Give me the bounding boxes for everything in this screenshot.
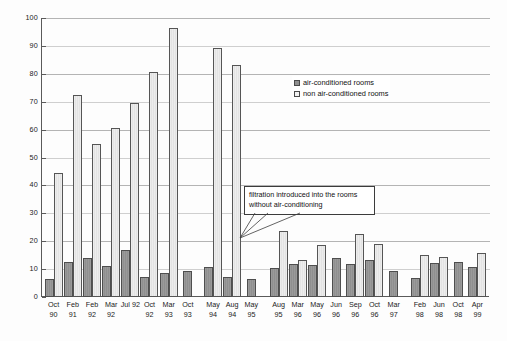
bar-group[interactable]	[346, 18, 365, 297]
bar-non-air-conditioned[interactable]	[279, 231, 288, 297]
x-axis-tick-label: Oct92	[140, 300, 159, 319]
y-axis-tick-label: 90	[12, 42, 38, 49]
annotation-line-2: without air-conditioning	[249, 200, 370, 210]
bar-group[interactable]	[140, 18, 159, 297]
bar-air-conditioned[interactable]	[270, 268, 279, 297]
bar-group[interactable]	[121, 18, 140, 297]
x-label-month: Oct	[453, 300, 464, 309]
bar-non-air-conditioned[interactable]	[213, 48, 222, 297]
x-label-year: 97	[384, 310, 403, 320]
bar-air-conditioned[interactable]	[121, 250, 130, 297]
bar-air-conditioned[interactable]	[247, 279, 256, 297]
x-label-month: Aug	[272, 300, 285, 309]
bar-air-conditioned[interactable]	[289, 264, 298, 297]
bar-non-air-conditioned[interactable]	[54, 173, 63, 297]
bar-group[interactable]	[223, 18, 242, 297]
bar-non-air-conditioned[interactable]	[92, 144, 101, 297]
bar-group[interactable]	[44, 18, 63, 297]
bar-group[interactable]	[307, 18, 326, 297]
bar-group[interactable]	[468, 18, 487, 297]
bar-group[interactable]	[203, 18, 222, 297]
x-label-month: Mar	[292, 300, 304, 309]
x-axis-tick-label: Apr99	[468, 300, 487, 319]
x-label-month: Jun	[330, 300, 342, 309]
x-label-month: Feb	[414, 300, 426, 309]
x-axis-tick-label: Oct98	[449, 300, 468, 319]
bar-non-air-conditioned[interactable]	[169, 28, 178, 297]
bar-air-conditioned[interactable]	[160, 273, 169, 297]
x-label-month: Mar	[105, 300, 117, 309]
bar-non-air-conditioned[interactable]	[298, 260, 307, 297]
bar-air-conditioned[interactable]	[64, 262, 73, 297]
x-label-year: 93	[178, 310, 197, 320]
x-label-year: 93	[159, 310, 178, 320]
bar-group[interactable]	[327, 18, 346, 297]
bar-group[interactable]	[159, 18, 178, 297]
bar-air-conditioned[interactable]	[204, 267, 213, 297]
bar-group[interactable]	[288, 18, 307, 297]
x-axis-tick-label: Jul 92	[121, 300, 140, 310]
bar-non-air-conditioned[interactable]	[317, 245, 326, 297]
bar-non-air-conditioned[interactable]	[111, 128, 120, 297]
bar-non-air-conditioned[interactable]	[232, 65, 241, 297]
bar-air-conditioned[interactable]	[346, 264, 355, 297]
bar-group[interactable]	[365, 18, 384, 297]
bar-air-conditioned[interactable]	[430, 263, 439, 297]
bar-air-conditioned[interactable]	[102, 266, 111, 297]
bar-non-air-conditioned[interactable]	[420, 255, 429, 297]
bar-air-conditioned[interactable]	[83, 258, 92, 297]
bar-group[interactable]	[178, 18, 197, 297]
bar-air-conditioned[interactable]	[454, 262, 463, 297]
x-label-month: Oct	[144, 300, 155, 309]
x-label-year: 92	[140, 310, 159, 320]
bar-air-conditioned[interactable]	[140, 277, 149, 297]
bar-non-air-conditioned[interactable]	[374, 244, 383, 297]
x-label-month: Oct	[48, 300, 59, 309]
bar-air-conditioned[interactable]	[389, 271, 398, 297]
x-label-year: 95	[269, 310, 288, 320]
bar-non-air-conditioned[interactable]	[73, 95, 82, 297]
bar-group[interactable]	[449, 18, 468, 297]
bar-group[interactable]	[410, 18, 429, 297]
x-label-month: Jul 92	[121, 300, 140, 309]
bar-air-conditioned[interactable]	[223, 277, 232, 297]
bar-air-conditioned[interactable]	[411, 278, 420, 297]
bar-air-conditioned[interactable]	[468, 267, 477, 297]
bar-air-conditioned[interactable]	[365, 260, 374, 297]
bar-group[interactable]	[63, 18, 82, 297]
y-axis: 0102030405060708090100	[0, 18, 38, 297]
bar-non-air-conditioned[interactable]	[439, 257, 448, 297]
x-label-year: 90	[44, 310, 63, 320]
x-label-month: Oct	[369, 300, 380, 309]
bar-air-conditioned[interactable]	[183, 271, 192, 297]
x-label-year: 92	[102, 310, 121, 320]
bar-non-air-conditioned[interactable]	[149, 72, 158, 297]
bar-group[interactable]	[242, 18, 261, 297]
x-label-month: May	[310, 300, 324, 309]
x-label-month: Feb	[67, 300, 79, 309]
bar-non-air-conditioned[interactable]	[477, 253, 486, 297]
x-axis-tick-label: Aug95	[269, 300, 288, 319]
y-axis-tick-label: 20	[12, 237, 38, 244]
bar-non-air-conditioned[interactable]	[130, 103, 139, 297]
bar-non-air-conditioned[interactable]	[355, 234, 364, 297]
x-label-month: Mar	[387, 300, 399, 309]
bar-air-conditioned[interactable]	[332, 258, 341, 297]
bar-group[interactable]	[102, 18, 121, 297]
bar-group[interactable]	[384, 18, 403, 297]
bar-air-conditioned[interactable]	[308, 265, 317, 297]
x-label-year: 94	[223, 310, 242, 320]
x-axis-tick-label: Mar96	[288, 300, 307, 319]
bar-air-conditioned[interactable]	[45, 279, 54, 297]
x-axis: Oct90Feb91Feb92Mar92Jul 92Oct92Mar93Oct9…	[42, 300, 489, 340]
x-label-year: 96	[365, 310, 384, 320]
x-axis-tick-label: Feb92	[82, 300, 101, 319]
x-axis-tick-label: Mar97	[384, 300, 403, 319]
x-axis-tick-label: Oct93	[178, 300, 197, 319]
y-axis-tick-label: 60	[12, 126, 38, 133]
x-label-year: 96	[288, 310, 307, 320]
bar-group[interactable]	[82, 18, 101, 297]
bar-group[interactable]	[429, 18, 448, 297]
x-axis-tick-label: Oct90	[44, 300, 63, 319]
bar-group[interactable]	[269, 18, 288, 297]
